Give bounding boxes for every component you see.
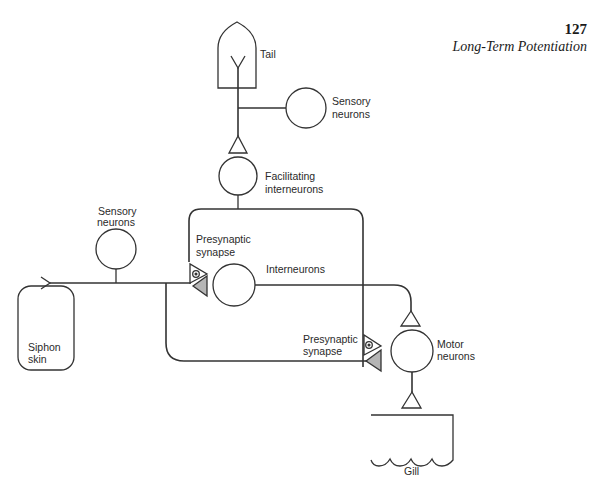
tail-sensory-neuron-soma: [286, 88, 326, 128]
tail-shape: [218, 22, 256, 88]
label-motor-neurons-1: Motor: [437, 338, 464, 350]
synapse-onto-interneuron: [193, 276, 207, 296]
motor-synapse-triangle: [402, 392, 421, 408]
tail-synapse-triangle: [229, 136, 247, 153]
label-motor-neurons-2: neurons: [437, 350, 475, 362]
label-tail-sensory-neurons-1: Sensory: [332, 95, 371, 107]
interneuron-axon: [255, 285, 411, 311]
label-facilitating-1: Facilitating: [265, 170, 315, 182]
label-gill: Gill: [404, 465, 419, 477]
gill-shape: [371, 415, 453, 466]
sensory-to-motor-axon: [166, 283, 380, 361]
label-siphon-sensory-neurons-2: neurons: [97, 216, 135, 228]
label-facilitating-2: interneurons: [265, 183, 323, 195]
label-presynaptic-lower-2: synapse: [303, 345, 342, 357]
label-presynaptic-upper-1: Presynaptic: [196, 233, 251, 245]
label-presynaptic-upper-2: synapse: [196, 246, 235, 258]
label-siphon-skin-1: Siphon: [28, 341, 61, 353]
siphon-receptor-icon: [41, 277, 50, 289]
interneuron-soma: [213, 264, 255, 306]
interneuron-synapse-triangle: [401, 311, 420, 326]
label-siphon-skin-2: skin: [28, 353, 47, 365]
label-presynaptic-lower-1: Presynaptic: [303, 333, 358, 345]
facilitating-interneuron-soma: [219, 157, 257, 195]
label-tail: Tail: [260, 48, 276, 60]
aplysia-gill-withdrawal-circuit-diagram: Tail Sensory neurons Facilitating intern…: [0, 0, 595, 489]
label-tail-sensory-neurons-2: neurons: [332, 108, 370, 120]
siphon-sensory-neuron-soma: [96, 229, 136, 269]
tail-receptor-icon: [231, 56, 245, 68]
motor-neuron-soma: [391, 330, 433, 372]
label-interneurons: Interneurons: [266, 263, 325, 275]
